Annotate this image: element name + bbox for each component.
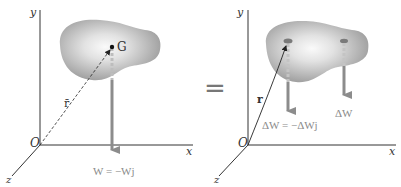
element-weight-label: ΔW = −ΔWj xyxy=(262,119,318,131)
x-axis-label: x xyxy=(389,145,396,158)
weight-label: W = −Wj xyxy=(93,165,135,177)
origin-label: O xyxy=(238,136,248,150)
centroid-label: G xyxy=(117,40,127,54)
position-vector-label: r xyxy=(257,93,263,106)
mass-element-2 xyxy=(340,39,348,43)
rigid-body-blob xyxy=(266,21,369,82)
x-axis-label: x xyxy=(186,145,193,158)
position-vector-label: r̄ xyxy=(64,97,70,110)
equals-sign: = xyxy=(204,73,226,103)
second-element-label: ΔW xyxy=(335,107,353,119)
left-diagram: G y x z O r̄ W = −Wj xyxy=(5,6,193,185)
mass-element-1 xyxy=(284,39,293,44)
origin-label: O xyxy=(30,136,40,150)
right-diagram: y x z O r ΔW = −ΔWj ΔW xyxy=(213,6,396,185)
z-axis-label: z xyxy=(213,174,220,185)
y-axis-label: y xyxy=(236,6,244,19)
z-axis-label: z xyxy=(5,174,12,185)
y-axis-label: y xyxy=(29,6,37,19)
rigid-body-blob xyxy=(60,20,161,81)
equivalent-weight-diagram: G y x z O r̄ W = −Wj = y x z O r ΔW = −Δ… xyxy=(0,0,401,187)
centroid-point xyxy=(110,45,114,49)
